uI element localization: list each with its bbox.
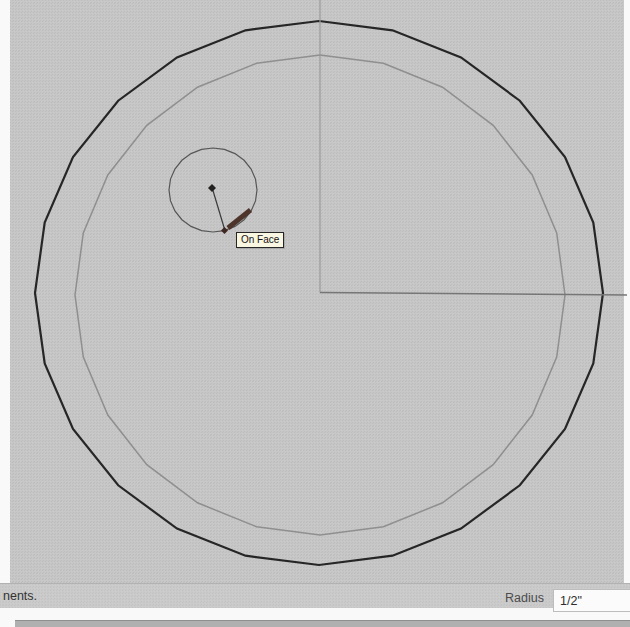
sketchup-window: On Face nents. Radius 1/2" (0, 0, 630, 627)
status-bar: nents. Radius 1/2" (0, 583, 630, 608)
measurement-label: Radius (505, 591, 544, 605)
inference-tooltip-text: On Face (241, 234, 279, 245)
radius-value: 1/2" (560, 594, 582, 608)
status-message: nents. (3, 589, 37, 603)
radius-measurement-input[interactable]: 1/2" (553, 589, 630, 612)
window-edge-band (15, 620, 630, 627)
inference-tooltip: On Face (236, 232, 284, 248)
drawing-canvas[interactable] (10, 0, 624, 583)
